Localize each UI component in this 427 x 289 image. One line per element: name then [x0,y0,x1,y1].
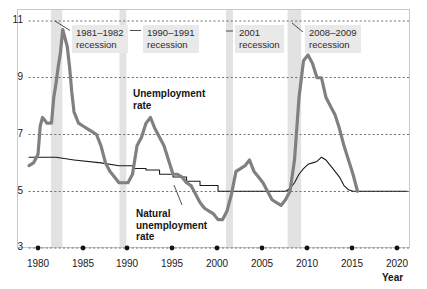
y-tick-label-3: 3 [1,241,23,252]
y-tick-label-9: 9 [1,71,23,82]
series-label-unemployment-rate: Unemployment rate [133,88,205,111]
x-tick-label-2010: 2010 [287,258,327,269]
x-tick-dot-2010 [305,246,310,251]
y-tick-label-7: 7 [1,128,23,139]
y-tick-label-5: 5 [1,185,23,196]
gridlines [29,21,409,248]
x-tick-dot-2015 [350,246,355,251]
annotation-recession-2001: 2001 recession [235,25,284,53]
y-tick-label-11: 11 [1,14,23,25]
x-tick-label-2005: 2005 [242,258,282,269]
x-axis-title: Year [382,272,403,283]
annotation-recession-2008-2009: 2008–2009 recession [305,25,361,53]
annotation-1981-1982-line1: 1981–1982 [76,27,124,39]
recession-band-2008-2009 [288,10,302,247]
series-label-natural-line3: rate [136,231,207,243]
x-tick-label-2000: 2000 [197,258,237,269]
annotation-1981-1982-line2: recession [76,39,124,51]
x-tick-label-1980: 1980 [18,258,58,269]
series-label-natural-line1: Natural [136,208,207,220]
annotation-2001-line1: 2001 [239,27,280,39]
annotation-1990-1991-line2: recession [147,39,195,51]
x-tick-dot-1985 [81,246,86,251]
series-label-natural-unemployment-rate: Natural unemployment rate [136,208,207,243]
annotation-1990-1991-line1: 1990–1991 [147,27,195,39]
annotation-recession-1981-1982: 1981–1982 recession [72,25,128,53]
x-tick-dot-2005 [260,246,265,251]
unemployment-chart-figure: 11 9 7 5 3 1980 1985 1990 1995 2000 2005… [0,0,427,289]
x-tick-dot-2020 [395,246,400,251]
annotation-2001-line2: recession [239,39,280,51]
annotation-recession-1990-1991: 1990–1991 recession [143,25,199,53]
series-label-unemployment-line2: rate [133,100,205,112]
series-label-unemployment-line1: Unemployment [133,88,205,100]
series-label-natural-line2: unemployment [136,220,207,232]
x-tick-label-2015: 2015 [332,258,372,269]
leader-line-natural [174,185,182,205]
x-tick-dot-2000 [215,246,220,251]
annotation-2008-2009-line1: 2008–2009 [309,27,357,39]
x-tick-label-2020: 2020 [377,258,417,269]
x-tick-label-1995: 1995 [152,258,192,269]
x-tick-dot-1980 [36,246,41,251]
x-tick-label-1985: 1985 [63,258,103,269]
x-tick-label-1990: 1990 [107,258,147,269]
x-tick-dot-1990 [125,246,130,251]
x-tick-dot-1995 [170,246,175,251]
annotation-2008-2009-line2: recession [309,39,357,51]
chart-plot-area [0,0,427,289]
